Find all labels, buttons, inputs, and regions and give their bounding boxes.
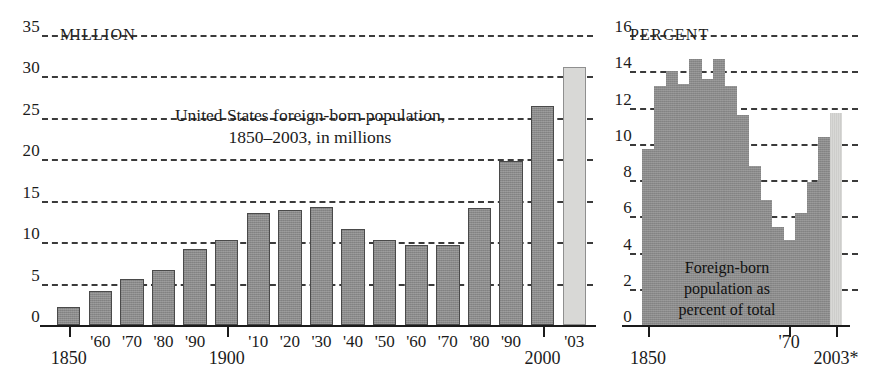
bar — [247, 213, 270, 325]
right-x-label: 1850 — [630, 349, 666, 367]
bar — [120, 279, 143, 325]
right-chart-panel: 1614121086420 PERCENT 1850'702003* Forei… — [600, 0, 889, 388]
left-x-major-label: 2000 — [525, 349, 561, 367]
right-y-tick-label: 16 — [600, 18, 632, 35]
left-y-tick-label: 10 — [6, 225, 40, 242]
left-y-tick-label: 35 — [6, 18, 40, 35]
bar — [531, 106, 554, 325]
left-x-minor-label: '40 — [343, 333, 363, 350]
left-chart-panel: 35302520151050 MILLION 1850'60'70'80'901… — [0, 0, 600, 388]
left-y-tick-label: 25 — [6, 100, 40, 117]
right-chart-title: Foreign-born population as percent of to… — [652, 258, 802, 320]
left-y-tick-label: 30 — [6, 59, 40, 76]
step-column — [830, 113, 842, 325]
left-x-major-label: 1900 — [209, 349, 245, 367]
left-x-minor-label: '20 — [280, 333, 300, 350]
right-y-tick-label: 8 — [600, 163, 632, 180]
bar — [468, 208, 491, 325]
left-y-tick-label: 5 — [6, 266, 40, 283]
right-x-tick — [648, 325, 650, 337]
right-title-line-2: population as — [652, 279, 802, 300]
right-x-tick — [836, 325, 838, 337]
right-x-label: '70 — [778, 333, 799, 351]
left-x-minor-label: '90 — [185, 333, 205, 350]
left-axis-baseline — [40, 325, 596, 327]
bar — [499, 161, 522, 325]
bar — [405, 245, 428, 325]
right-axis-baseline — [622, 325, 850, 327]
left-x-minor-label: '60 — [90, 333, 110, 350]
left-y-tick-label: 0 — [6, 308, 40, 325]
left-x-major-tick — [69, 325, 71, 337]
right-x-label: 2003* — [814, 349, 859, 367]
step-column — [818, 137, 831, 326]
left-x-major-tick — [543, 325, 545, 337]
right-y-tick-label: 12 — [600, 90, 632, 107]
right-title-line-1: Foreign-born — [652, 258, 802, 279]
left-y-tick-label: 15 — [6, 183, 40, 200]
bar — [183, 249, 206, 325]
right-y-tick-label: 10 — [600, 126, 632, 143]
left-title-line-1: United States foreign-born population, — [150, 104, 470, 126]
bar — [373, 240, 396, 325]
left-x-major-tick — [227, 325, 229, 337]
bar — [215, 240, 238, 325]
bar — [57, 307, 80, 325]
left-x-minor-label: '60 — [406, 333, 426, 350]
left-x-minor-label: '10 — [248, 333, 268, 350]
left-bars-area — [53, 35, 590, 325]
right-y-tick-label: 6 — [600, 199, 632, 216]
left-x-minor-label: '70 — [438, 333, 458, 350]
left-x-minor-label: '80 — [154, 333, 174, 350]
left-x-minor-label: '90 — [501, 333, 521, 350]
left-x-minor-label: '50 — [375, 333, 395, 350]
left-x-major-label: 1850 — [51, 349, 87, 367]
right-title-line-3: percent of total — [652, 300, 802, 321]
left-x-minor-label: '70 — [122, 333, 142, 350]
chart-page: 35302520151050 MILLION 1850'60'70'80'901… — [0, 0, 889, 388]
left-y-tick-label: 20 — [6, 142, 40, 159]
bar — [89, 291, 112, 325]
right-y-tick-label: 0 — [600, 308, 632, 325]
left-x-minor-label: '03 — [564, 333, 584, 350]
left-title-line-2: 1850–2003, in millions — [150, 126, 470, 148]
bar — [341, 229, 364, 325]
right-y-tick-label: 2 — [600, 271, 632, 288]
bar — [563, 67, 586, 325]
left-x-minor-label: '80 — [469, 333, 489, 350]
bar — [152, 270, 175, 326]
bar — [310, 207, 333, 325]
step-column — [807, 182, 820, 325]
right-y-tick-label: 14 — [600, 54, 632, 71]
left-x-minor-label: '30 — [311, 333, 331, 350]
right-y-tick-label: 4 — [600, 235, 632, 252]
left-chart-title: United States foreign-born population, 1… — [150, 104, 470, 149]
bar — [436, 245, 459, 325]
bar — [278, 210, 301, 325]
